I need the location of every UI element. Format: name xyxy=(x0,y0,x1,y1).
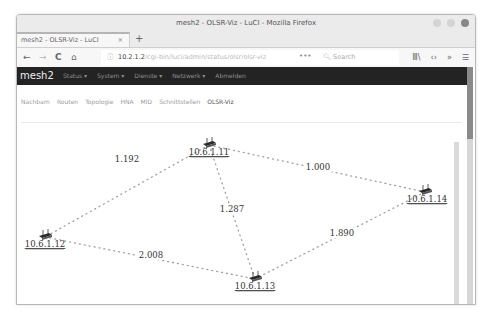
node-label[interactable]: 10.6.1.13 xyxy=(235,281,276,291)
node-n12[interactable]: 10.6.1.12 xyxy=(25,229,66,249)
topology-graph: 1.1921.2871.0002.0081.890 10.6.1.1110.6.… xyxy=(0,0,486,317)
node-n14[interactable]: 10.6.1.14 xyxy=(407,184,448,204)
node-n11[interactable]: 10.6.1.11 xyxy=(189,137,230,157)
node-n13[interactable]: 10.6.1.13 xyxy=(235,271,276,291)
node-label[interactable]: 10.6.1.12 xyxy=(25,239,66,249)
node-label[interactable]: 10.6.1.11 xyxy=(189,147,230,157)
link-etx-label: 1.890 xyxy=(330,228,354,238)
link-etx-label: 2.008 xyxy=(139,250,163,260)
link-etx-label: 1.000 xyxy=(306,162,330,172)
link-etx-label: 1.192 xyxy=(115,154,139,164)
link-etx-label: 1.287 xyxy=(220,204,244,214)
node-label[interactable]: 10.6.1.14 xyxy=(407,194,448,204)
